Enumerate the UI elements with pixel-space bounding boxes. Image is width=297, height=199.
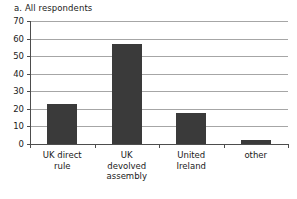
y-axis-tick-label: 30 (2, 86, 24, 96)
x-axis-tick (224, 144, 225, 148)
y-axis-tick-label: 20 (2, 104, 24, 114)
x-axis-tick (159, 144, 160, 148)
bar (241, 140, 271, 144)
x-axis-tick (30, 144, 31, 148)
bar (176, 113, 206, 144)
bar (47, 104, 77, 144)
x-axis-category-label: United Ireland (159, 150, 224, 171)
chart-title: a. All respondents (14, 3, 92, 13)
x-axis-category-label: UK direct rule (30, 150, 95, 171)
bar (112, 44, 142, 144)
x-axis-category-label: UK devolved assembly (95, 150, 160, 182)
y-axis-tick-label: 60 (2, 34, 24, 44)
y-axis-tick-label: 0 (2, 139, 24, 149)
x-axis-tick (288, 144, 289, 148)
bar-chart-figure: a. All respondents 010203040506070 UK di… (0, 0, 297, 199)
y-axis-tick-label: 70 (2, 16, 24, 26)
y-axis-tick-label: 40 (2, 69, 24, 79)
y-axis-tick-label: 10 (2, 121, 24, 131)
plot-area (30, 21, 288, 144)
x-axis-tick (95, 144, 96, 148)
x-axis-category-label: other (224, 150, 289, 161)
y-axis-tick-label: 50 (2, 51, 24, 61)
